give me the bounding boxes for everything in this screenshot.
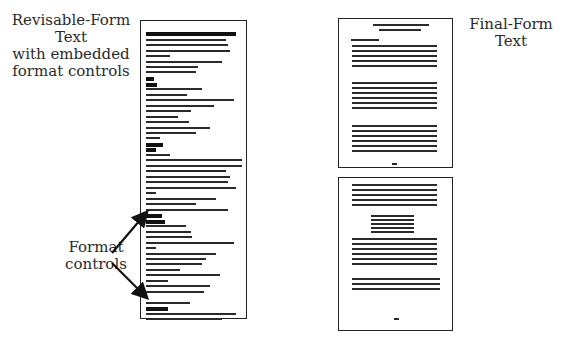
arrow-up-icon	[112, 213, 146, 253]
callout-arrows	[0, 0, 565, 344]
arrow-down-icon	[112, 263, 146, 297]
